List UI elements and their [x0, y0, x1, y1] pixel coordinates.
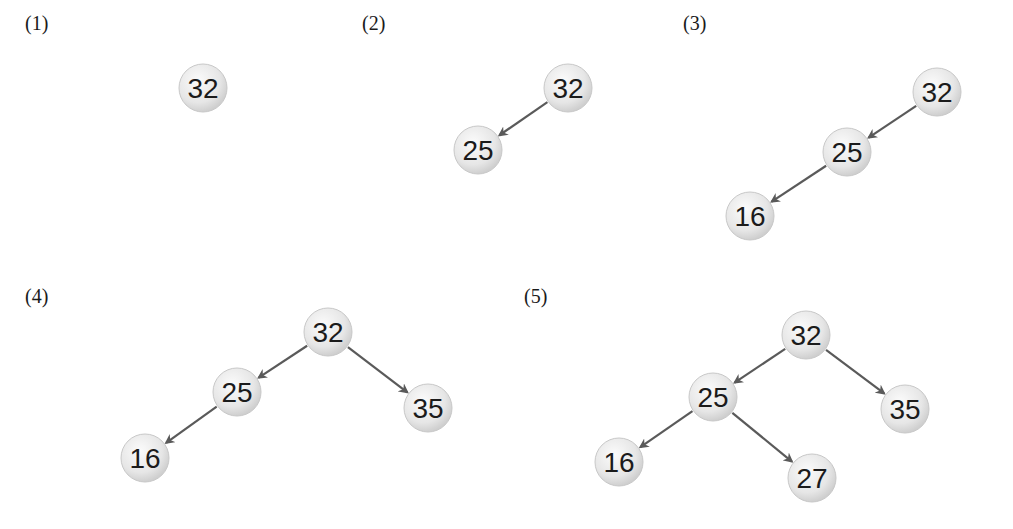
- tree-node-35: 35: [404, 384, 452, 432]
- node-value: 25: [462, 135, 493, 166]
- tree-node-32: 32: [913, 68, 961, 116]
- tree-node-25: 25: [689, 373, 737, 421]
- node-value: 32: [552, 73, 583, 104]
- node-value: 32: [790, 320, 821, 351]
- tree-diagram: 323225322516322535163225351627: [0, 0, 1013, 529]
- edge-arrow-25-to-16: [166, 407, 217, 443]
- edges-layer: [166, 102, 916, 461]
- node-value: 16: [734, 201, 765, 232]
- node-value: 16: [603, 447, 634, 478]
- tree-node-16: 16: [121, 434, 169, 482]
- tree-node-32: 32: [179, 64, 227, 112]
- node-value: 32: [187, 73, 218, 104]
- edge-arrow-32-to-25: [869, 106, 917, 138]
- tree-node-27: 27: [788, 454, 836, 502]
- tree-node-32: 32: [304, 308, 352, 356]
- edge-arrow-25-to-16: [772, 166, 826, 202]
- tree-node-25: 25: [213, 368, 261, 416]
- edge-arrow-32-to-25: [259, 346, 307, 378]
- node-value: 35: [412, 393, 443, 424]
- node-value: 32: [312, 317, 343, 348]
- node-value: 32: [921, 77, 952, 108]
- tree-node-35: 35: [881, 385, 929, 433]
- node-value: 35: [889, 394, 920, 425]
- tree-node-32: 32: [544, 64, 592, 112]
- node-value: 27: [796, 463, 827, 494]
- node-value: 25: [697, 382, 728, 413]
- tree-node-16: 16: [726, 192, 774, 240]
- tree-node-32: 32: [782, 311, 830, 359]
- edge-arrow-32-to-35: [348, 347, 407, 392]
- edge-arrow-32-to-25: [499, 102, 547, 135]
- node-value: 25: [831, 137, 862, 168]
- node-value: 25: [221, 377, 252, 408]
- tree-node-25: 25: [823, 128, 871, 176]
- node-value: 16: [129, 443, 160, 474]
- tree-node-25: 25: [454, 126, 502, 174]
- edge-arrow-32-to-35: [826, 350, 884, 393]
- tree-node-16: 16: [595, 438, 643, 486]
- edge-arrow-25-to-27: [732, 413, 792, 462]
- edge-arrow-25-to-16: [640, 411, 692, 447]
- edge-arrow-32-to-25: [735, 349, 786, 383]
- nodes-layer: 323225322516322535163225351627: [121, 64, 961, 502]
